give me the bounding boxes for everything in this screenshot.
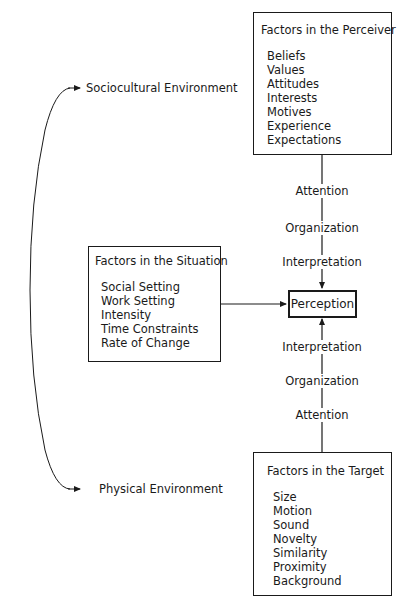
list-item: Work Setting xyxy=(101,294,198,308)
list-item: Rate of Change xyxy=(101,336,198,350)
list-item: Values xyxy=(267,63,341,77)
lower-attention-label: Attention xyxy=(293,408,350,422)
situation-title: Factors in the Situation xyxy=(95,254,228,268)
list-item: Sound xyxy=(273,518,342,532)
upper-interpretation-label: Interpretation xyxy=(280,255,363,269)
target-list: Size Motion Sound Novelty Similarity Pro… xyxy=(273,490,342,588)
lower-organization-label: Organization xyxy=(283,374,361,388)
perceiver-list: Beliefs Values Attitudes Interests Motiv… xyxy=(267,49,341,147)
list-item: Proximity xyxy=(273,560,342,574)
list-item: Motion xyxy=(273,504,342,518)
list-item: Beliefs xyxy=(267,49,341,63)
list-item: Experience xyxy=(267,119,341,133)
list-item: Time Constraints xyxy=(101,322,198,336)
upper-organization-label: Organization xyxy=(283,221,361,235)
list-item: Similarity xyxy=(273,546,342,560)
list-item: Social Setting xyxy=(101,280,198,294)
perception-box: Perception xyxy=(288,290,357,318)
target-title: Factors in the Target xyxy=(267,464,384,478)
environment-curve xyxy=(30,88,70,489)
situation-factors-box: Factors in the Situation Social Setting … xyxy=(88,246,221,362)
list-item: Intensity xyxy=(101,308,198,322)
lower-interpretation-label: Interpretation xyxy=(280,340,363,354)
list-item: Novelty xyxy=(273,532,342,546)
physical-environment-label: Physical Environment xyxy=(97,482,225,496)
perception-label: Perception xyxy=(291,297,354,311)
list-item: Size xyxy=(273,490,342,504)
list-item: Interests xyxy=(267,91,341,105)
situation-list: Social Setting Work Setting Intensity Ti… xyxy=(101,280,198,350)
list-item: Motives xyxy=(267,105,341,119)
list-item: Background xyxy=(273,574,342,588)
perceiver-title: Factors in the Perceiver xyxy=(261,23,396,37)
upper-attention-label: Attention xyxy=(293,184,350,198)
perceiver-factors-box: Factors in the Perceiver Beliefs Values … xyxy=(253,12,392,155)
target-factors-box: Factors in the Target Size Motion Sound … xyxy=(253,452,392,596)
sociocultural-environment-label: Sociocultural Environment xyxy=(84,81,240,95)
list-item: Expectations xyxy=(267,133,341,147)
list-item: Attitudes xyxy=(267,77,341,91)
